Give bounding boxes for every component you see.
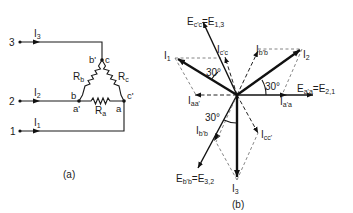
current-arrow-icon (33, 99, 40, 104)
label-I1: I1 (164, 50, 171, 62)
angle-label-bottom: 30° (205, 112, 220, 123)
node-label-c-prime: c' (127, 90, 134, 101)
resistor-label-Rb: Rb (73, 71, 84, 83)
terminal-1-label: 1 (10, 126, 16, 137)
label-I-aa-prime: Iaa' (188, 95, 200, 107)
phasor-I-cc-prime (237, 95, 258, 133)
line-2: 2 I2 (9, 87, 79, 107)
label-E-c-prime-c: Ec'c=E1,3 (187, 16, 224, 28)
caption-a: (a) (63, 169, 75, 180)
arrow-I-b-prime-b-lower-icon (214, 133, 221, 141)
angle-arc-bottom (224, 120, 237, 123)
figure-a-circuit: 3 I3 2 I2 1 I1 (9, 28, 134, 180)
label-E-a-prime-a: Ea'a=E2,1 (297, 83, 335, 95)
angle-label-top: 30° (206, 67, 221, 78)
diagram-canvas: 3 I3 2 I2 1 I1 (0, 0, 353, 213)
angle-label-right: 30° (265, 81, 280, 92)
caption-b: (b) (232, 199, 244, 210)
construction-line (237, 133, 258, 180)
node-label-b: b (71, 90, 76, 101)
node-label-c: c (105, 54, 110, 65)
label-I-b-prime-b-lower: Ib'b (196, 125, 208, 137)
terminal-2-label: 2 (9, 96, 15, 107)
node-label-b-prime: b' (89, 54, 96, 65)
current-arrow-icon (33, 40, 40, 45)
label-I3: I3 (232, 183, 239, 195)
figure-b-phasor: Ec'c=E1,3 Ic'c I1 Ib'b I2 Ea'a=E2,1 Ia'a… (164, 16, 335, 210)
resistor-label-Rc: Rc (118, 71, 129, 83)
node-label-a-prime: a' (73, 103, 80, 114)
node-label-a: a (116, 103, 122, 114)
terminal-3-label: 3 (9, 37, 15, 48)
construction-line (216, 142, 237, 180)
label-I-b-prime-b: Ib'b (256, 44, 268, 56)
line-1: 1 I1 (10, 101, 124, 137)
current-I3-label: I3 (34, 28, 41, 40)
label-I2: I2 (303, 49, 310, 61)
label-I-c-prime-c: Ic'c (217, 44, 229, 56)
label-I-a-prime-a: Ia'a (280, 96, 292, 108)
label-I-cc-prime: Icc' (261, 129, 272, 141)
resistor-label-Ra: Ra (95, 105, 106, 117)
label-E-b-prime-b: Eb'b=E3,2 (176, 173, 214, 185)
current-I2-label: I2 (34, 87, 41, 99)
current-arrow-icon (33, 129, 40, 134)
current-I1-label: I1 (34, 117, 41, 129)
